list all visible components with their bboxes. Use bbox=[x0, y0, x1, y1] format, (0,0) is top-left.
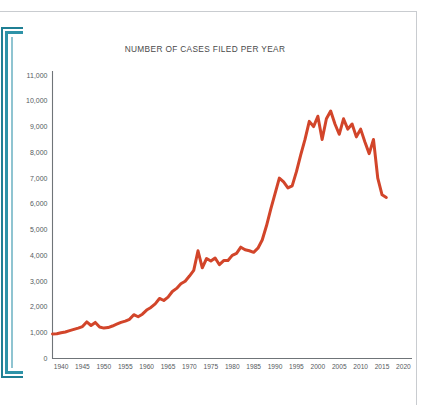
x-tick-2010: 2010 bbox=[353, 363, 368, 370]
y-tick-3000: 3,000 bbox=[30, 278, 48, 285]
y-tick-8000: 8,000 bbox=[30, 149, 48, 156]
y-tick-1000: 1,000 bbox=[30, 329, 48, 336]
data-series-line bbox=[53, 111, 387, 334]
x-tick-2000: 2000 bbox=[311, 363, 326, 370]
x-tick-1980: 1980 bbox=[225, 363, 240, 370]
y-tick-2000: 2,000 bbox=[30, 303, 48, 310]
x-tick-1975: 1975 bbox=[204, 363, 219, 370]
x-tick-2020: 2020 bbox=[396, 363, 411, 370]
y-axis-tick-labels: 01,0002,0003,0004,0005,0006,0007,0008,00… bbox=[26, 72, 48, 363]
x-tick-1985: 1985 bbox=[246, 363, 261, 370]
x-axis-tick-labels: 1940194519501955196019651970197519801985… bbox=[54, 363, 411, 370]
x-tick-1990: 1990 bbox=[268, 363, 283, 370]
x-tick-1960: 1960 bbox=[139, 363, 154, 370]
y-tick-5000: 5,000 bbox=[30, 226, 48, 233]
x-tick-1995: 1995 bbox=[289, 363, 304, 370]
chart-axes bbox=[53, 71, 413, 359]
x-tick-1955: 1955 bbox=[118, 363, 133, 370]
line-chart: NUMBER OF CASES FILED PER YEAR 01,0002,0… bbox=[0, 0, 430, 405]
x-tick-1940: 1940 bbox=[54, 363, 69, 370]
chart-plot-svg: 01,0002,0003,0004,0005,0006,0007,0008,00… bbox=[0, 0, 430, 405]
x-tick-1970: 1970 bbox=[182, 363, 197, 370]
y-tick-0: 0 bbox=[44, 355, 48, 362]
y-tick-9000: 9,000 bbox=[30, 123, 48, 130]
y-tick-6000: 6,000 bbox=[30, 200, 48, 207]
y-tick-4000: 4,000 bbox=[30, 252, 48, 259]
y-tick-7000: 7,000 bbox=[30, 175, 48, 182]
y-tick-11000: 11,000 bbox=[27, 72, 48, 79]
x-tick-1950: 1950 bbox=[97, 363, 112, 370]
x-tick-1965: 1965 bbox=[161, 363, 176, 370]
x-tick-2015: 2015 bbox=[375, 363, 390, 370]
x-tick-2005: 2005 bbox=[332, 363, 347, 370]
y-tick-10000: 10,000 bbox=[26, 97, 48, 104]
x-tick-1945: 1945 bbox=[75, 363, 90, 370]
